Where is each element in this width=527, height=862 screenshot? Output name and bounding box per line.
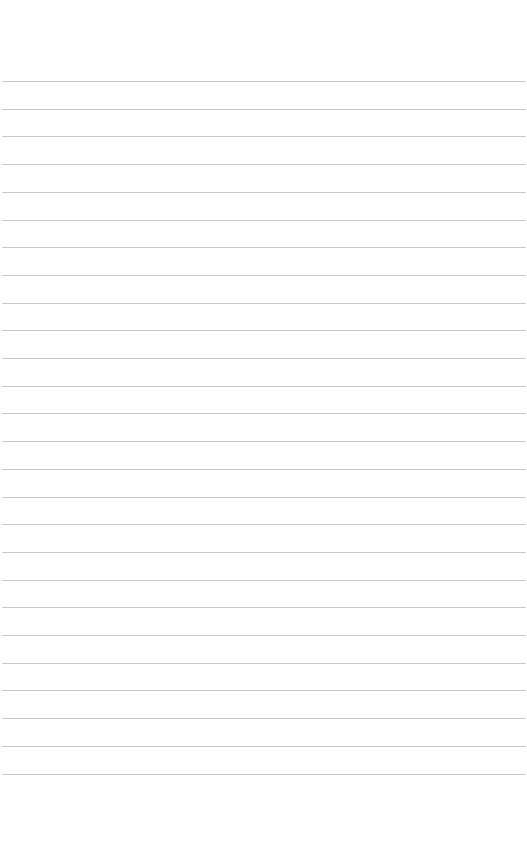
ruled-line	[2, 635, 526, 636]
ruled-line	[2, 552, 526, 553]
ruled-line	[2, 580, 526, 581]
ruled-line	[2, 413, 526, 414]
ruled-line	[2, 663, 526, 664]
ruled-line	[2, 774, 526, 775]
ruled-line	[2, 303, 526, 304]
ruled-line	[2, 497, 526, 498]
ruled-page	[0, 0, 527, 862]
ruled-line	[2, 469, 526, 470]
ruled-line	[2, 247, 526, 248]
ruled-line	[2, 358, 526, 359]
ruled-line	[2, 386, 526, 387]
ruled-line	[2, 109, 526, 110]
ruled-line	[2, 524, 526, 525]
ruled-line	[2, 81, 526, 82]
ruled-line	[2, 192, 526, 193]
ruled-line	[2, 746, 526, 747]
ruled-line	[2, 220, 526, 221]
ruled-line	[2, 718, 526, 719]
ruled-line	[2, 330, 526, 331]
ruled-line	[2, 164, 526, 165]
ruled-line	[2, 607, 526, 608]
ruled-line	[2, 136, 526, 137]
ruled-line	[2, 275, 526, 276]
ruled-line	[2, 441, 526, 442]
ruled-line	[2, 690, 526, 691]
